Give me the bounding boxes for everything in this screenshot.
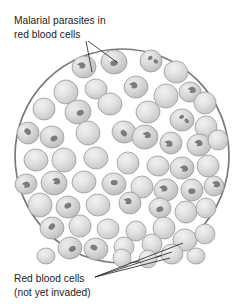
cell-body <box>37 248 55 264</box>
red-blood-cell <box>208 130 228 150</box>
cell-body <box>187 248 205 264</box>
cell-body <box>33 98 55 120</box>
malarial-parasites-label-line2: red blood cells <box>14 29 80 40</box>
malaria-blood-smear-figure: Malarial parasites in red blood cells Re… <box>0 0 248 304</box>
cell-body <box>97 219 119 239</box>
red-blood-cells-label-line2: (not yet invaded) <box>14 287 91 298</box>
cell-body <box>140 50 162 72</box>
infected-red-blood-cell <box>119 192 141 214</box>
cell-body <box>196 198 216 218</box>
cell-body <box>208 130 228 150</box>
red-blood-cell <box>33 98 55 120</box>
red-blood-cell <box>117 152 139 174</box>
red-blood-cell <box>187 248 205 264</box>
red-blood-cell <box>97 219 119 239</box>
red-blood-cell <box>195 224 215 244</box>
cell-body <box>195 224 215 244</box>
red-blood-cell <box>37 248 55 264</box>
malarial-parasites-label-line1: Malarial parasites in <box>14 15 106 26</box>
red-blood-cell <box>196 198 216 218</box>
figure-canvas: Malarial parasites in red blood cells Re… <box>0 0 248 304</box>
red-blood-cells-label-line1: Red blood cells <box>14 273 84 284</box>
cell-body <box>117 152 139 174</box>
infected-red-blood-cell <box>140 50 162 72</box>
infected-red-blood-cell <box>204 176 224 196</box>
